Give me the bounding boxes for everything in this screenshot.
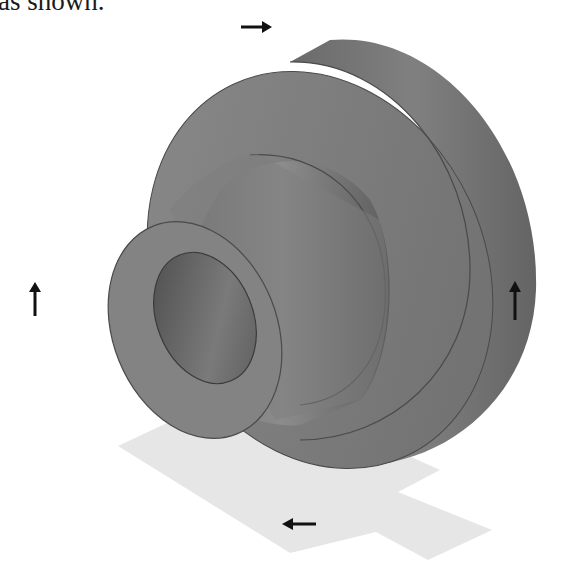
arrow-right-icon <box>241 21 272 33</box>
arrow-up-icon <box>29 282 41 316</box>
annotation-label: e <box>526 272 533 289</box>
isometric-part-figure: e <box>0 0 568 564</box>
